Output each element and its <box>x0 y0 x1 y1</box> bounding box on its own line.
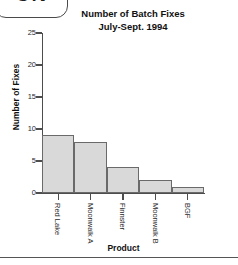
bar-finnster <box>107 167 139 193</box>
bar-bgf <box>172 187 204 193</box>
x-tick-label: Moonwalk B <box>151 203 159 244</box>
x-axis-title: Product <box>42 243 205 253</box>
x-tick <box>187 194 188 200</box>
y-tick-label: 25 <box>10 29 36 37</box>
x-tick-label: Red Lake <box>54 203 62 235</box>
bar-moonwalk-b <box>139 180 171 193</box>
plot-area <box>42 33 204 193</box>
bar-chart-figure: Number of Batch Fixes July-Sept. 1994 05… <box>0 0 238 265</box>
x-tick <box>58 194 59 200</box>
y-tick-label: 0 <box>10 189 36 197</box>
chart-title: Number of Batch Fixes July-Sept. 1994 <box>58 8 208 33</box>
bar-moonwalk-a <box>74 142 106 193</box>
x-tick <box>122 194 123 200</box>
x-tick <box>90 194 91 200</box>
y-axis-title: Number of Fixes <box>11 57 21 137</box>
x-tick-label: Finnster <box>119 203 127 230</box>
chart-title-line1: Number of Batch Fixes <box>81 8 184 19</box>
bar-red-lake <box>42 135 74 193</box>
footer-divider <box>0 257 238 258</box>
x-tick-label: Moonwalk A <box>86 203 94 243</box>
x-tick <box>155 194 156 200</box>
x-tick-label: BGF <box>184 203 192 218</box>
chart-title-line2: July-Sept. 1994 <box>58 21 208 34</box>
y-tick-label: 5 <box>10 157 36 165</box>
